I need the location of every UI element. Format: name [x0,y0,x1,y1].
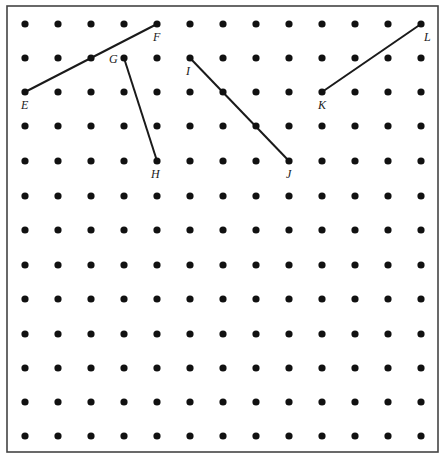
grid-dot [384,364,391,371]
grid-dot [252,295,259,302]
grid-dot [318,192,325,199]
grid-dot [54,295,61,302]
grid-dot [417,122,424,129]
grid-dot [21,364,28,371]
grid-dot [351,398,358,405]
point-label-h: H [150,167,161,181]
grid-dot [285,88,292,95]
grid-dot [120,295,127,302]
grid-dot [285,157,292,164]
grid-dot [219,192,226,199]
grid-dot [285,226,292,233]
grid-dot [153,261,160,268]
grid-dot [417,261,424,268]
grid-dot [285,54,292,61]
grid-dot [351,261,358,268]
grid-dot [153,54,160,61]
grid-dot [54,398,61,405]
grid-dot [87,330,94,337]
grid-dot [318,88,325,95]
grid-dot [120,20,127,27]
grid-dot [153,398,160,405]
grid-dot [186,330,193,337]
grid-dot [153,20,160,27]
grid-dot [54,88,61,95]
grid-dot [417,432,424,439]
grid-dot [285,330,292,337]
grid-dot [21,295,28,302]
grid-dot [384,432,391,439]
grid-dot [417,364,424,371]
grid-dot [351,295,358,302]
grid-dot [417,330,424,337]
grid-dot [318,364,325,371]
segment-ij [190,58,289,161]
grid-dot [186,20,193,27]
grid-dot [87,295,94,302]
grid-dot [186,261,193,268]
dot-grid [21,20,424,439]
grid-dot [285,261,292,268]
grid-dot [351,122,358,129]
grid-dot [318,226,325,233]
grid-dot [153,295,160,302]
grid-dot [252,54,259,61]
grid-dot [87,432,94,439]
grid-dot [186,226,193,233]
grid-dot [285,20,292,27]
grid-dot [351,88,358,95]
grid-dot [120,364,127,371]
grid-dot [87,261,94,268]
grid-dot [384,122,391,129]
grid-dot [219,226,226,233]
grid-dot [285,192,292,199]
grid-dot [219,54,226,61]
grid-dot [417,192,424,199]
grid-dot [285,295,292,302]
grid-dot [252,88,259,95]
grid-dot [318,330,325,337]
grid-dot [87,364,94,371]
point-label-e: E [20,98,29,112]
grid-dot [87,192,94,199]
grid-dot [219,295,226,302]
grid-dot [351,157,358,164]
grid-dot [21,261,28,268]
grid-dot [21,157,28,164]
geoboard-diagram: EFGHIJKL [0,0,445,457]
point-label-i: I [185,64,191,78]
grid-dot [54,261,61,268]
grid-dot [54,226,61,233]
grid-dot [21,226,28,233]
grid-dot [285,364,292,371]
grid-dot [219,432,226,439]
grid-dot [120,192,127,199]
grid-dot [351,54,358,61]
segment-kl [322,24,421,92]
grid-dot [120,88,127,95]
grid-dot [318,398,325,405]
grid-dot [54,330,61,337]
grid-dot [384,330,391,337]
grid-dot [384,192,391,199]
grid-dot [54,20,61,27]
grid-dot [186,157,193,164]
grid-dot [153,88,160,95]
grid-dot [54,432,61,439]
grid-dot [351,192,358,199]
grid-dot [384,398,391,405]
grid-dot [252,20,259,27]
grid-dot [252,398,259,405]
grid-dot [219,122,226,129]
grid-dot [153,192,160,199]
grid-dot [417,398,424,405]
grid-dot [351,330,358,337]
grid-dot [54,364,61,371]
grid-dot [384,157,391,164]
grid-dot [153,226,160,233]
grid-dot [252,192,259,199]
grid-dot [384,261,391,268]
grid-dot [318,157,325,164]
grid-dot [87,54,94,61]
grid-dot [252,432,259,439]
